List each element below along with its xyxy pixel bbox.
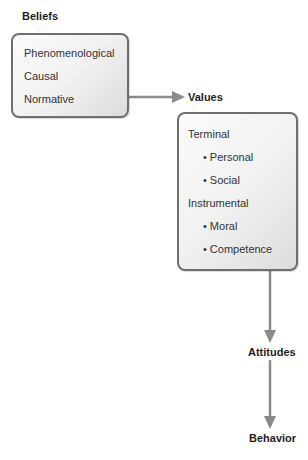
values-item-personal-label: Personal	[210, 151, 253, 163]
beliefs-item-normative: Normative	[24, 93, 74, 105]
values-group-terminal: Terminal	[188, 128, 230, 140]
beliefs-box: Phenomenological Causal Normative	[11, 33, 129, 118]
bullet-icon: •	[203, 174, 207, 186]
values-group-instrumental: Instrumental	[188, 197, 249, 209]
attitudes-label: Attitudes	[248, 346, 296, 358]
arrow-values-to-attitudes	[264, 270, 276, 343]
values-item-competence: •Competence	[203, 243, 272, 255]
beliefs-heading: Beliefs	[22, 10, 58, 22]
arrow-beliefs-to-values	[128, 91, 185, 103]
values-item-social: •Social	[203, 174, 240, 186]
beliefs-item-phenomenological: Phenomenological	[24, 47, 115, 59]
values-box: Terminal •Personal •Social Instrumental …	[177, 112, 298, 271]
values-heading: Values	[188, 91, 223, 103]
beliefs-item-causal: Causal	[24, 70, 58, 82]
values-item-competence-label: Competence	[210, 243, 272, 255]
bullet-icon: •	[203, 243, 207, 255]
arrow-attitudes-to-behavior	[264, 360, 276, 429]
values-item-personal: •Personal	[203, 151, 253, 163]
bullet-icon: •	[203, 151, 207, 163]
bullet-icon: •	[203, 220, 207, 232]
values-item-social-label: Social	[210, 174, 240, 186]
values-item-moral-label: Moral	[210, 220, 238, 232]
values-item-moral: •Moral	[203, 220, 237, 232]
behavior-label: Behavior	[249, 432, 296, 444]
